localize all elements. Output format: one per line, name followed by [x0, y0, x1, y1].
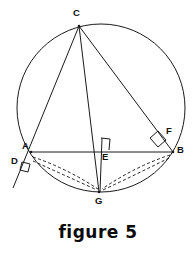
vertex-dot-a [30, 151, 33, 154]
point-label-e: E [102, 152, 108, 162]
point-label-b: B [177, 145, 184, 155]
vertex-dot-g [98, 191, 101, 194]
point-label-c: C [73, 8, 80, 18]
chord-cg [79, 26, 99, 192]
point-label-g: G [95, 196, 102, 206]
line-c-through-a-to-d [13, 26, 79, 188]
chord-cb [79, 26, 173, 152]
figure-container: C A B D E F G figure 5 [0, 0, 196, 256]
dashed-a-to-g-lower [33, 161, 97, 190]
point-label-f: F [166, 126, 172, 136]
point-label-d: D [11, 156, 18, 166]
segment-eg [100, 138, 102, 192]
vertex-dot-c [78, 25, 81, 28]
figure-caption: figure 5 [0, 222, 196, 242]
vertex-dot-b [172, 151, 175, 154]
dashed-b-to-g-lower [103, 158, 169, 190]
point-label-a: A [22, 141, 29, 151]
